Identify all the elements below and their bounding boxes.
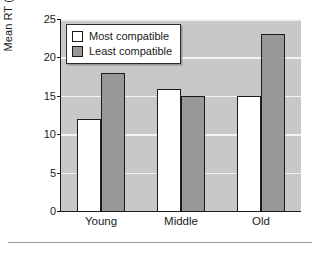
footer-rule [8, 242, 312, 243]
legend-swatch [72, 31, 83, 42]
y-tick-mark [57, 57, 61, 58]
y-tick-label: 25 [22, 14, 60, 25]
y-tick-label: 10 [22, 129, 60, 140]
x-tick-label: Old [211, 215, 311, 227]
legend-label: Most compatible [89, 31, 169, 42]
y-tick-label: 15 [22, 90, 60, 101]
legend-item: Least compatible [72, 44, 172, 59]
bar [181, 96, 205, 211]
gridline [61, 19, 301, 21]
legend: Most compatibleLeast compatible [66, 24, 181, 64]
y-tick-label: 20 [22, 52, 60, 63]
bar [237, 96, 261, 211]
y-tick-mark [57, 96, 61, 97]
y-tick-mark [57, 211, 61, 212]
y-tick-mark [57, 134, 61, 135]
y-tick-mark [57, 19, 61, 20]
bar [77, 119, 101, 211]
legend-label: Least compatible [89, 46, 172, 57]
bar [101, 73, 125, 211]
y-tick-label: 5 [22, 167, 60, 178]
bar [261, 34, 285, 211]
y-axis-label: Mean RT (ms) [2, 0, 20, 76]
legend-item: Most compatible [72, 29, 172, 44]
bar [157, 89, 181, 211]
y-tick-mark [57, 173, 61, 174]
figure: Mean RT (ms) 0510152025 YoungMiddleOld M… [0, 0, 320, 255]
legend-swatch [72, 46, 83, 57]
